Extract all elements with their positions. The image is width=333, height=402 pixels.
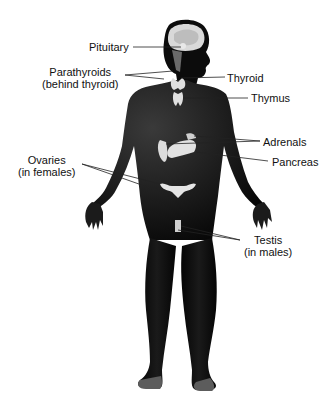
endocrine-diagram: Pituitary Parathyroids (behind thyroid) … (0, 0, 333, 402)
label-parathyroids-note: (behind thyroid) (42, 78, 118, 90)
label-parathyroids: Parathyroids (behind thyroid) (42, 66, 118, 90)
label-pituitary-text: Pituitary (89, 41, 129, 53)
label-thymus: Thymus (251, 92, 290, 104)
label-testis-note: (in males) (244, 246, 292, 258)
label-thymus-text: Thymus (251, 92, 290, 104)
label-pancreas-text: Pancreas (272, 156, 318, 168)
label-pituitary: Pituitary (89, 41, 129, 53)
label-testis-text: Testis (244, 234, 292, 246)
label-parathyroids-text: Parathyroids (42, 66, 118, 78)
label-thyroid-text: Thyroid (227, 72, 264, 84)
label-ovaries-note: (in females) (18, 166, 75, 178)
label-adrenals-text: Adrenals (263, 136, 306, 148)
right-hand (253, 202, 272, 230)
body-illustration (0, 0, 333, 402)
label-testis: Testis (in males) (244, 234, 292, 258)
head (164, 20, 211, 86)
label-ovaries: Ovaries (in females) (18, 154, 75, 178)
label-ovaries-text: Ovaries (18, 154, 75, 166)
left-hand (85, 202, 103, 230)
legs (138, 238, 217, 391)
label-thyroid: Thyroid (227, 72, 264, 84)
torso (85, 80, 272, 240)
label-adrenals: Adrenals (263, 136, 306, 148)
label-pancreas: Pancreas (272, 156, 318, 168)
